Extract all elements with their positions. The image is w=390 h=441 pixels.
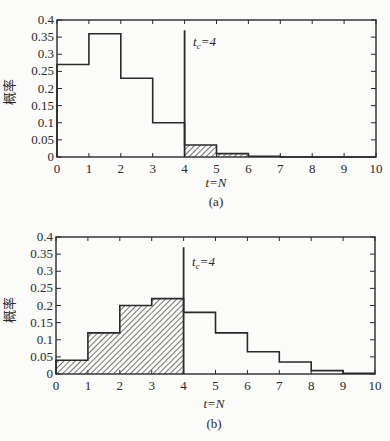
x-axis-label-b: t=N [203, 396, 225, 411]
y-tick-label-a: 0.15 [31, 98, 54, 113]
y-tick-label-b: 0.35 [30, 246, 53, 261]
y-tick-label-b: 0.3 [37, 263, 53, 278]
x-tick-label-b: 3 [148, 378, 155, 393]
x-tick-label-a: 0 [54, 161, 61, 176]
x-tick-label-a: 6 [245, 161, 252, 176]
hatched-bar-b [152, 299, 184, 374]
y-tick-label-a: 0.35 [31, 29, 54, 44]
x-tick-label-b: 5 [212, 378, 219, 393]
y-tick-label-a: 0.1 [38, 115, 54, 130]
x-tick-label-b: 4 [180, 378, 187, 393]
hatched-bar-b [88, 333, 120, 374]
x-tick-label-b: 2 [117, 378, 124, 393]
x-tick-label-a: 7 [277, 161, 284, 176]
caption-b: (b) [206, 416, 221, 431]
x-tick-label-b: 1 [85, 378, 92, 393]
x-axis-label-a: t=N [205, 175, 227, 190]
x-tick-label-a: 4 [181, 161, 188, 176]
marker-label-b: tc=4 [192, 254, 215, 271]
y-tick-label-a: 0.2 [38, 81, 54, 96]
x-tick-label-a: 10 [370, 161, 383, 176]
x-tick-label-b: 8 [308, 378, 315, 393]
y-tick-label-a: 0.05 [31, 132, 54, 147]
plot-frame-a [57, 20, 376, 157]
y-tick-label-a: 0 [48, 149, 55, 164]
x-tick-label-a: 8 [309, 161, 316, 176]
x-tick-label-a: 9 [341, 161, 348, 176]
histogram-outline-a [57, 34, 376, 157]
x-tick-label-b: 10 [369, 378, 382, 393]
y-axis-label-a: 概率 [2, 79, 17, 105]
panel-a: 01234567891000.050.10.150.20.250.30.350.… [2, 12, 383, 209]
marker-label-rest-b: =4 [200, 254, 216, 269]
y-tick-label-b: 0.25 [30, 280, 53, 295]
y-tick-label-b: 0.4 [37, 229, 54, 244]
marker-label-a: tc=4 [193, 34, 216, 51]
x-tick-label-b: 0 [53, 378, 60, 393]
panel-b: 01234567891000.050.10.150.20.250.30.350.… [2, 229, 382, 431]
hatched-bar-b [56, 360, 88, 374]
x-tick-label-a: 3 [149, 161, 156, 176]
x-tick-label-a: 2 [118, 161, 125, 176]
caption-a: (a) [209, 194, 223, 209]
y-tick-label-a: 0.4 [38, 12, 55, 27]
x-tick-label-a: 5 [213, 161, 220, 176]
x-tick-label-b: 7 [276, 378, 283, 393]
hatched-bar-a [185, 145, 217, 157]
chart-canvas: 01234567891000.050.10.150.20.250.30.350.… [0, 0, 390, 441]
marker-label-rest-a: =4 [201, 34, 217, 49]
y-tick-label-b: 0.15 [30, 315, 53, 330]
x-tick-label-b: 6 [244, 378, 251, 393]
x-tick-label-a: 1 [86, 161, 93, 176]
y-tick-label-b: 0.1 [37, 332, 53, 347]
x-tick-label-b: 9 [340, 378, 347, 393]
y-axis-label-b: 概率 [2, 297, 17, 323]
figure: 01234567891000.050.10.150.20.250.30.350.… [0, 0, 390, 441]
y-tick-label-a: 0.3 [38, 46, 54, 61]
y-tick-label-b: 0.2 [37, 298, 53, 313]
y-tick-label-b: 0 [47, 366, 54, 381]
hatched-bar-b [120, 306, 152, 375]
y-tick-label-b: 0.05 [30, 349, 53, 364]
y-tick-label-a: 0.25 [31, 63, 54, 78]
